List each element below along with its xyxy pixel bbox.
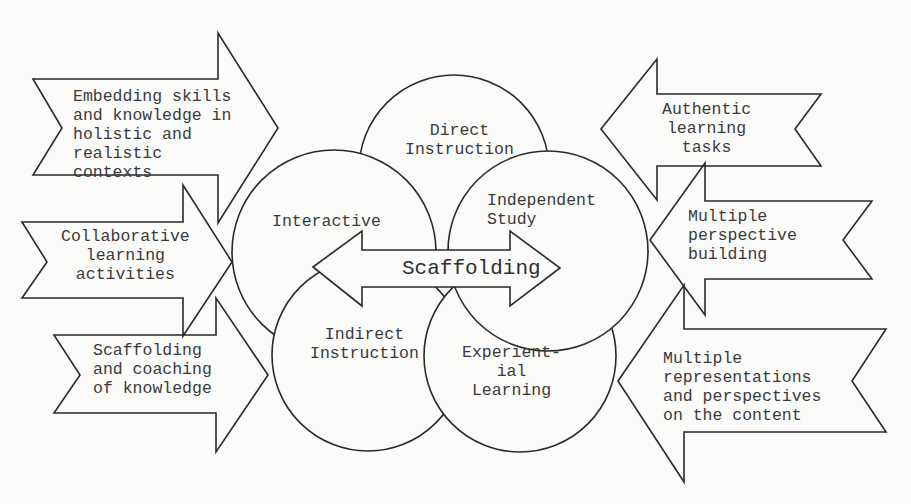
- label-multiple-perspective: Multiple perspective building: [688, 207, 797, 264]
- label-interactive: Interactive: [272, 212, 381, 231]
- label-embedding-skills: Embedding skills and knowledge in holist…: [73, 87, 231, 182]
- label-indirect-instruction: Indirect Instruction: [310, 325, 419, 363]
- label-experiential-learning: Experient- ial Learning: [462, 343, 561, 400]
- label-multiple-representations: Multiple representations and perspective…: [663, 349, 821, 425]
- label-scaffolding-coaching: Scaffolding and coaching of knowledge: [93, 341, 212, 398]
- label-independent-study: Independent Study: [487, 191, 596, 229]
- label-authentic-tasks: Authentic learning tasks: [662, 100, 751, 157]
- label-direct-instruction: Direct Instruction: [405, 121, 514, 159]
- label-scaffolding-center: Scaffolding: [402, 257, 541, 281]
- label-collaborative-learning: Collaborative learning activities: [61, 227, 190, 284]
- diagram-canvas: Direct Instruction Interactive Independe…: [0, 0, 911, 504]
